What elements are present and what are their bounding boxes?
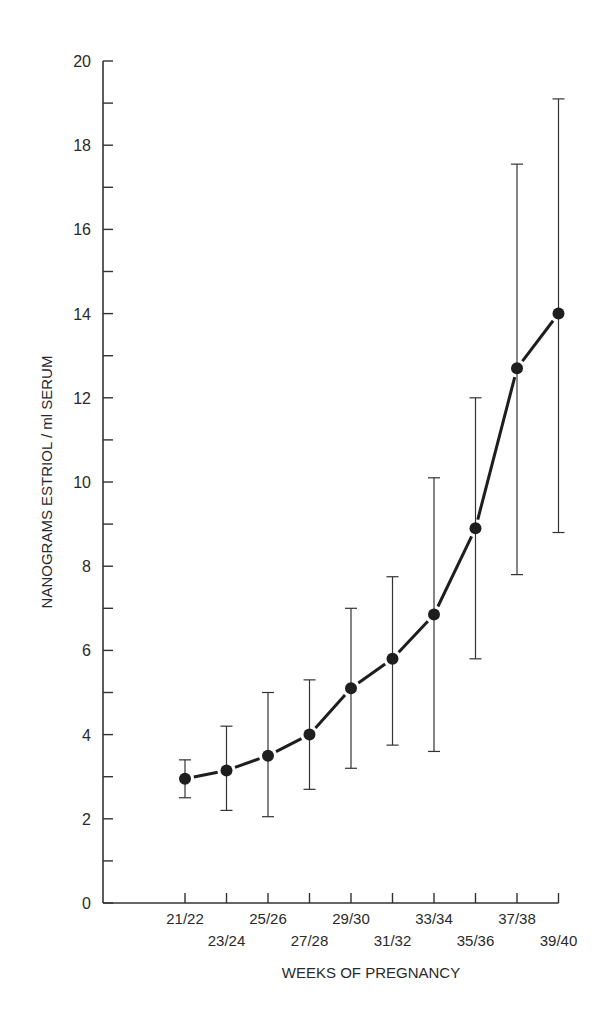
x-tick-label: 23/24 — [208, 932, 246, 949]
x-tick-label: 29/30 — [332, 910, 370, 927]
x-axis: 21/2223/2425/2627/2829/3031/3233/3435/36… — [103, 893, 577, 949]
y-tick-label: 0 — [82, 895, 91, 912]
data-point — [221, 764, 233, 776]
line-segment — [438, 536, 472, 606]
x-tick-label: 35/36 — [457, 932, 495, 949]
y-tick-label: 2 — [82, 811, 91, 828]
line-segment — [358, 664, 385, 683]
data-line — [194, 321, 553, 777]
data-point — [345, 682, 357, 694]
line-segment — [194, 772, 218, 777]
error-bars — [179, 99, 565, 817]
data-point — [428, 609, 440, 621]
line-segment — [235, 759, 260, 768]
data-point — [304, 729, 316, 741]
data-point — [470, 522, 482, 534]
y-tick-label: 14 — [73, 306, 91, 323]
x-tick-label: 31/32 — [374, 932, 412, 949]
line-segment — [276, 739, 301, 752]
line-segment — [522, 321, 553, 361]
data-point — [387, 653, 399, 665]
estriol-chart: 02468101214161820 21/2223/2425/2627/2829… — [0, 0, 606, 1018]
y-tick-label: 12 — [73, 390, 91, 407]
x-tick-label: 33/34 — [415, 910, 453, 927]
y-tick-label: 6 — [82, 642, 91, 659]
y-tick-label: 4 — [82, 727, 91, 744]
data-point — [553, 308, 565, 320]
x-tick-label: 21/22 — [166, 910, 204, 927]
y-axis: 02468101214161820 — [73, 53, 113, 912]
x-tick-label: 37/38 — [498, 910, 536, 927]
x-axis-label: WEEKS OF PREGNANCY — [282, 964, 460, 981]
x-tick-label: 25/26 — [249, 910, 287, 927]
data-point — [511, 362, 523, 374]
y-tick-label: 8 — [82, 558, 91, 575]
data-markers — [179, 308, 565, 785]
x-tick-label: 27/28 — [291, 932, 329, 949]
y-tick-label: 10 — [73, 474, 91, 491]
line-segment — [399, 621, 428, 652]
line-segment — [478, 377, 515, 520]
y-axis-label: NANOGRAMS ESTRIOL / ml SERUM — [38, 356, 55, 609]
line-segment — [316, 695, 345, 728]
y-tick-label: 20 — [73, 53, 91, 70]
y-tick-label: 18 — [73, 137, 91, 154]
y-tick-label: 16 — [73, 221, 91, 238]
data-point — [179, 773, 191, 785]
x-tick-label: 39/40 — [540, 932, 578, 949]
data-point — [262, 750, 274, 762]
